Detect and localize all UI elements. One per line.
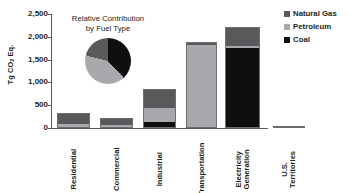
bar-commercial xyxy=(100,118,133,128)
x-axis-label-electricity-generation: Electricity Generation xyxy=(234,132,251,193)
x-axis-label-u-s-territories: U.S. Territories xyxy=(281,132,298,193)
legend-item-natural-gas: Natural Gas xyxy=(284,7,337,20)
legend: Natural GasPetroleumCoal xyxy=(284,7,337,46)
bar-segment-natural-gas xyxy=(144,90,175,108)
x-axis-line xyxy=(52,128,268,129)
legend-swatch-icon xyxy=(284,37,290,43)
bar-segment-natural-gas xyxy=(58,114,89,124)
pie-chart xyxy=(85,38,131,84)
pie-inset: Relative Contribution by Fuel Type xyxy=(62,14,154,92)
bar-electricity-generation xyxy=(225,27,260,128)
bar-segment-petroleum xyxy=(58,124,89,127)
x-axis-label-commercial: Commercial xyxy=(112,132,120,193)
legend-swatch-icon xyxy=(284,24,290,30)
bar-transportation xyxy=(186,42,217,128)
legend-swatch-icon xyxy=(284,11,290,17)
bar-segment-natural-gas xyxy=(101,119,132,126)
bar-u-s-territories xyxy=(273,126,305,128)
bar-residential xyxy=(57,113,90,128)
bar-segment-petroleum xyxy=(101,125,132,127)
legend-item-coal: Coal xyxy=(284,33,337,46)
bar-industrial xyxy=(143,89,176,128)
bar-segment-natural-gas xyxy=(226,28,259,45)
x-axis-label-residential: Residential xyxy=(69,132,77,193)
pie-inset-title: Relative Contribution by Fuel Type xyxy=(62,14,154,33)
bar-segment-coal xyxy=(226,48,259,127)
legend-item-petroleum: Petroleum xyxy=(284,20,337,33)
x-axis-label-industrial: Industrial xyxy=(155,132,163,193)
x-axis-label-transportation: Transportation xyxy=(197,132,205,193)
legend-item-label: Coal xyxy=(293,35,310,44)
bar-segment-coal xyxy=(144,122,175,127)
legend-item-label: Petroleum xyxy=(293,22,331,31)
bar-segment-petroleum xyxy=(144,108,175,122)
emissions-stacked-bar-chart: Tg CO2 Eq. 05001,0001,5002,0002,500 Resi… xyxy=(0,0,350,193)
legend-item-label: Natural Gas xyxy=(293,9,337,18)
bar-segment-petroleum xyxy=(187,45,216,127)
